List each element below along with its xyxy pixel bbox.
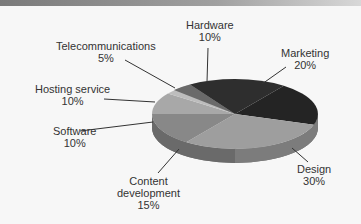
label-design: Design 30% xyxy=(297,163,331,187)
pie-chart-3d xyxy=(0,0,361,224)
label-hosting-service: Hosting service 10% xyxy=(35,83,110,107)
label-marketing: Marketing 20% xyxy=(281,47,329,71)
label-hosting-name: Hosting service xyxy=(35,83,110,95)
label-software: Software 10% xyxy=(53,125,96,149)
label-telecom-name: Telecommunications xyxy=(56,40,156,52)
label-marketing-value: 20% xyxy=(281,59,329,71)
label-design-value: 30% xyxy=(297,175,331,187)
label-software-value: 10% xyxy=(53,137,96,149)
label-content-name-2: development xyxy=(117,187,180,199)
label-content-name-1: Content xyxy=(117,175,180,187)
label-content-value: 15% xyxy=(117,199,180,211)
label-software-name: Software xyxy=(53,125,96,137)
label-design-name: Design xyxy=(297,163,331,175)
label-marketing-name: Marketing xyxy=(281,47,329,59)
label-content-development: Content development 15% xyxy=(117,175,180,211)
label-telecommunications: Telecommunications 5% xyxy=(56,40,156,64)
label-hardware: Hardware 10% xyxy=(186,19,234,43)
label-hardware-name: Hardware xyxy=(186,19,234,31)
label-hosting-value: 10% xyxy=(35,95,110,107)
label-hardware-value: 10% xyxy=(186,31,234,43)
label-telecom-value: 5% xyxy=(56,52,156,64)
pie-top-slices xyxy=(152,79,318,149)
